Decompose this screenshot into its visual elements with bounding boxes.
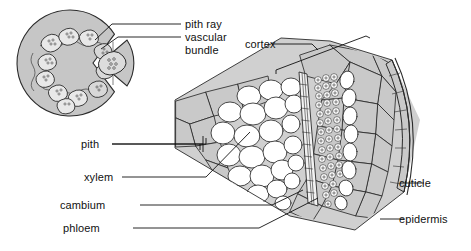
label-cuticle: cuticle	[399, 177, 431, 189]
label-cambium: cambium	[60, 199, 105, 211]
main-wedge-sector	[175, 38, 420, 230]
inset-stem-disc	[17, 10, 134, 116]
label-pith: pith	[81, 138, 99, 150]
label-epidermis: epidermis	[399, 213, 448, 225]
label-xylem: xylem	[84, 171, 113, 183]
label-vascular-bundle-line1: vascular	[185, 31, 227, 43]
label-phloem: phloem	[63, 222, 100, 234]
diagram-root: pith ray vascular bundle cortex pith xyl…	[0, 0, 471, 251]
stem-cross-section-figure: pith ray vascular bundle cortex pith xyl…	[0, 0, 471, 251]
label-pith-ray: pith ray	[185, 18, 222, 30]
label-cortex: cortex	[245, 38, 276, 50]
label-vascular-bundle-line2: bundle	[185, 44, 219, 56]
